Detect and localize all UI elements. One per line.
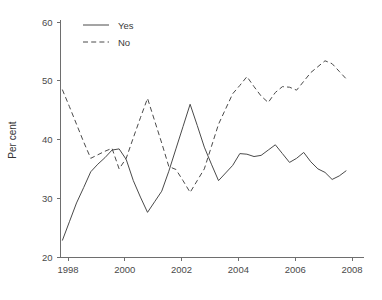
y-tick-label: 30	[42, 193, 53, 204]
series-line-yes	[62, 104, 346, 240]
x-tick-label: 1998	[57, 264, 78, 275]
x-tick-label: 2008	[341, 264, 362, 275]
y-tick-label: 20	[42, 252, 53, 263]
series-group	[62, 61, 346, 241]
y-tick-label: 40	[42, 134, 53, 145]
x-axis: 199820002002200420062008	[57, 257, 364, 275]
y-axis-title: Per cent	[7, 121, 18, 158]
x-tick-label: 2002	[171, 264, 192, 275]
y-axis: 2030405060	[42, 17, 61, 263]
chart-legend: YesNo	[83, 20, 134, 48]
x-tick-label: 2000	[114, 264, 135, 275]
y-tick-group: 2030405060	[42, 17, 61, 263]
y-tick-label: 50	[42, 75, 53, 86]
legend-label-no: No	[118, 37, 130, 48]
series-line-no	[62, 61, 346, 193]
x-tick-label: 2004	[228, 264, 249, 275]
chart-container: 2030405060 199820002002200420062008 Per …	[0, 0, 382, 300]
x-tick-label: 2006	[285, 264, 306, 275]
legend-label-yes: Yes	[118, 20, 134, 31]
y-tick-label: 60	[42, 17, 53, 28]
x-tick-group: 199820002002200420062008	[57, 257, 362, 275]
line-chart: 2030405060 199820002002200420062008 Per …	[0, 0, 382, 300]
